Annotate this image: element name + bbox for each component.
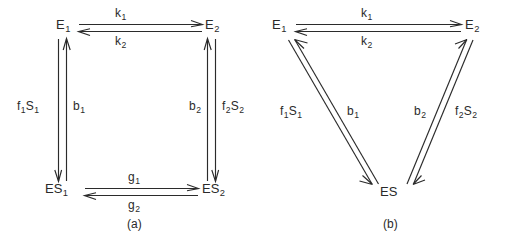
kinetic-scheme-figure: E1 E2 ES1 ES2 k1 k2 f1S1 b1 b2 f2S2 g1 g…	[0, 0, 507, 243]
rate-label-sub: 2	[367, 40, 372, 50]
panel-a-rate-g1: g1	[128, 171, 140, 183]
panel-b-node-ES: ES	[380, 185, 398, 198]
rate-label-base: g	[128, 198, 135, 212]
rate-label-base: b	[347, 104, 354, 118]
panel-a-arrow-b1	[63, 39, 70, 182]
panel-b-node-E2: E2	[465, 18, 479, 31]
panel-b-rate-f1s1: f1S1	[280, 105, 302, 117]
panel-b-rate-b2: b2	[414, 105, 426, 117]
panel-a-rate-k1: k1	[115, 7, 126, 19]
rate-label-sub: 1	[354, 110, 359, 120]
rate-label-sub2: 2	[239, 105, 244, 115]
rate-label-sub: 1	[121, 12, 126, 22]
rate-label-sub: 1	[20, 105, 25, 115]
panel-a-arrow-k2	[79, 29, 203, 36]
node-label-base: E	[205, 17, 214, 32]
panel-a-rate-f2s2: f2S2	[222, 100, 244, 112]
node-label-sub: 2	[214, 24, 220, 34]
panel-a-arrow-g2	[85, 193, 199, 200]
panel-a-node-ES1: ES1	[45, 182, 68, 195]
panel-b-rate-k2: k2	[361, 35, 372, 47]
node-label-base: E	[272, 17, 281, 32]
panel-a-node-E2: E2	[205, 18, 219, 31]
panel-a-arrow-g1	[85, 185, 199, 191]
panel-a-rate-f1s1: f1S1	[17, 100, 39, 112]
rate-label-sub: 2	[225, 105, 230, 115]
rate-label-base2: S	[26, 99, 34, 113]
panel-a-arrow-b2	[204, 39, 211, 182]
panel-b-rate-f2s2: f2S2	[455, 105, 477, 117]
panel-b-node-E1: E1	[272, 18, 286, 31]
panel-a-arrow-f2s2	[212, 39, 219, 182]
rate-label-sub: 1	[367, 12, 372, 22]
panel-a-node-E1: E1	[56, 18, 70, 31]
rate-label-base: b	[189, 99, 196, 113]
node-label-sub: 1	[65, 24, 71, 34]
rate-label-sub2: 1	[297, 110, 302, 120]
node-label-base: ES	[202, 181, 219, 196]
node-label-sub: 1	[62, 188, 68, 198]
panel-b-arrow-k2	[296, 29, 462, 36]
node-label-base: ES	[45, 181, 62, 196]
node-label-base: ES	[380, 184, 397, 199]
panel-b-rate-k1: k1	[361, 7, 372, 19]
rate-label-sub: 2	[135, 204, 140, 214]
panel-b-rate-b1: b1	[347, 105, 359, 117]
rate-label-sub2: 2	[472, 110, 477, 120]
rate-label-base: b	[73, 99, 80, 113]
panel-b-caption: (b)	[383, 218, 398, 230]
rate-label-sub: 1	[283, 110, 288, 120]
panel-a-rate-b1: b1	[73, 100, 85, 112]
rate-label-sub: 2	[196, 105, 201, 115]
rate-label-base: b	[414, 104, 421, 118]
panel-a-arrow-f1s1	[55, 39, 62, 182]
panel-a-rate-g2: g2	[128, 199, 140, 211]
rate-label-base2: S	[231, 99, 239, 113]
rate-label-sub2: 1	[34, 105, 39, 115]
node-label-sub	[397, 191, 398, 201]
panel-b-arrow-k1	[296, 21, 462, 27]
node-label-base: E	[465, 17, 474, 32]
rate-label-sub: 2	[121, 40, 126, 50]
panel-a-rate-b2: b2	[189, 100, 201, 112]
rate-label-base: g	[128, 170, 135, 184]
node-label-base: E	[56, 17, 65, 32]
rate-label-base2: S	[289, 104, 297, 118]
rate-label-sub: 2	[458, 110, 463, 120]
panel-a-caption: (a)	[127, 218, 142, 230]
panel-a-arrow-k1	[79, 21, 203, 27]
node-label-sub: 2	[219, 188, 225, 198]
panel-a-rate-k2: k2	[115, 35, 126, 47]
panel-b-arrow-b1	[295, 40, 379, 185]
rate-label-sub: 1	[135, 176, 140, 186]
rate-label-sub: 1	[80, 105, 85, 115]
panel-a-node-ES2: ES2	[202, 182, 225, 195]
arrow-layer	[0, 0, 507, 243]
node-label-sub: 2	[474, 24, 480, 34]
rate-label-sub: 2	[421, 110, 426, 120]
rate-label-base2: S	[464, 104, 472, 118]
node-label-sub: 1	[281, 24, 287, 34]
